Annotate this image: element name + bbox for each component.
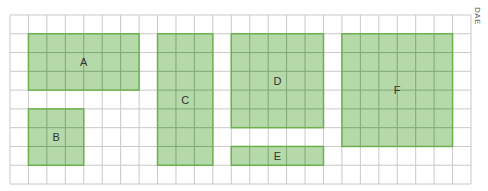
region-label: A xyxy=(80,56,88,68)
region-label: D xyxy=(273,75,281,87)
corner-label: DAE xyxy=(473,7,482,25)
region-label: B xyxy=(52,131,59,143)
region-label: F xyxy=(394,84,401,96)
regions xyxy=(28,34,452,165)
grid-diagram: ABCDEF xyxy=(0,0,488,191)
region-label: C xyxy=(181,94,189,106)
region-label: E xyxy=(274,150,281,162)
